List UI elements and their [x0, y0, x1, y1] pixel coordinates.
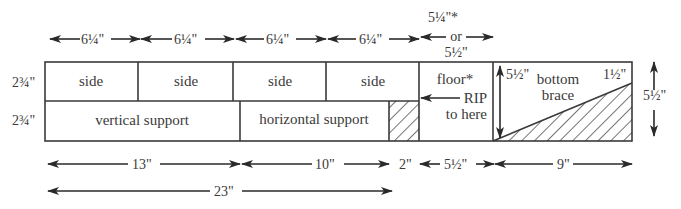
- piece-side-1: side: [79, 73, 104, 89]
- top-dimension-side-2: 6¼": [141, 32, 234, 47]
- rip-label-line2: to here: [446, 106, 488, 122]
- bottom-dimension-floor: 5½": [420, 157, 494, 172]
- cut-layout-diagram: 6¼" 6¼" 6¼" 6¼" 5¼"* or 5½" 2¾" 2¾": [0, 0, 681, 209]
- overall-height-label: 5½": [643, 88, 666, 103]
- row-height-bottom: 2¾": [12, 113, 35, 128]
- dim-bottom-brace-label: 9": [557, 157, 570, 172]
- dim-side-2-label: 6¼": [174, 32, 197, 47]
- rip-label-line1: RIP: [464, 90, 487, 106]
- piece-horizontal-support: horizontal support: [259, 111, 369, 127]
- brace-corner-label: 1½": [603, 67, 626, 82]
- piece-vertical-support: vertical support: [95, 112, 190, 128]
- bottom-dimension-horizontal-support: 10": [242, 157, 389, 172]
- dim-floor-line2: or: [450, 29, 462, 44]
- top-dimension-side-4: 6¼": [328, 32, 419, 47]
- dim-total-supports-label: 23": [214, 184, 234, 199]
- piece-side-3: side: [268, 73, 293, 89]
- dim-floor-label: 5½": [444, 157, 467, 172]
- bottom-dimension-total-supports: 23": [48, 184, 392, 199]
- dim-horizontal-support-label: 10": [315, 157, 335, 172]
- piece-side-2: side: [174, 73, 199, 89]
- dim-side-4-label: 6¼": [359, 32, 382, 47]
- dim-side-3-label: 6¼": [266, 32, 289, 47]
- hatched-waste-area: [389, 101, 419, 141]
- dim-vertical-support-label: 13": [132, 157, 152, 172]
- bottom-dimension-bottom-brace: 9": [495, 157, 632, 172]
- brace-left-height-label: 5½": [506, 67, 529, 82]
- bottom-dimension-vertical-support: 13": [48, 157, 240, 172]
- row-height-top: 2¾": [12, 75, 35, 90]
- piece-bottom-brace-line2: brace: [542, 87, 575, 103]
- piece-floor: floor*: [437, 71, 474, 87]
- dim-floor-line1: 5¼"*: [428, 10, 458, 25]
- piece-side-4: side: [361, 73, 386, 89]
- overall-height-dimension: 5½": [643, 62, 666, 136]
- dim-hatched-waste-label: 2": [399, 157, 412, 172]
- top-dimension-side-3: 6¼": [236, 32, 326, 47]
- dim-side-1-label: 6¼": [81, 32, 104, 47]
- piece-bottom-brace-line1: bottom: [537, 71, 580, 87]
- top-dimension-floor: 5¼"* or 5½": [421, 10, 493, 60]
- dim-floor-line3: 5½": [444, 45, 467, 60]
- top-dimension-side-1: 6¼": [50, 32, 140, 47]
